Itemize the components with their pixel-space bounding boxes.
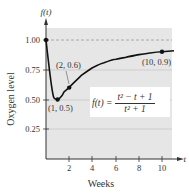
y-tick-label: 0.25	[25, 124, 40, 134]
x-tick-label: 4	[90, 163, 95, 173]
x-axis-variable-label: t	[183, 154, 186, 164]
data-point	[160, 50, 164, 54]
data-point	[67, 85, 71, 89]
y-tick-label: 1.00	[25, 35, 40, 45]
data-point-min	[55, 97, 59, 101]
formula-numerator: t² − t + 1	[115, 92, 154, 104]
x-tick-label: 8	[137, 163, 141, 173]
y-axis-arrow-icon	[44, 18, 48, 25]
annotation-label: (1, 0.5)	[48, 103, 73, 113]
y-tick-label: 0.50	[25, 95, 40, 105]
annotation-label: (2, 0.6)	[56, 60, 81, 70]
x-tick-label: 10	[158, 163, 167, 173]
formula: f(t) = t² − t + 1 t² + 1	[92, 89, 170, 117]
x-tick-label: 2	[67, 163, 71, 173]
data-point	[44, 38, 48, 42]
formula-lhs: f(t) =	[92, 98, 112, 108]
x-axis-title: Weeks	[88, 178, 115, 189]
y-axis-variable-label: f(t)	[41, 7, 52, 17]
annotation-label: (10, 0.9)	[142, 57, 171, 67]
formula-fraction: t² − t + 1 t² + 1	[115, 92, 154, 115]
formula-denominator: t² + 1	[124, 104, 145, 115]
y-axis-title: Oxygen level	[5, 72, 16, 126]
y-tick-label: 0.75	[25, 65, 40, 75]
x-tick-label: 6	[114, 163, 118, 173]
